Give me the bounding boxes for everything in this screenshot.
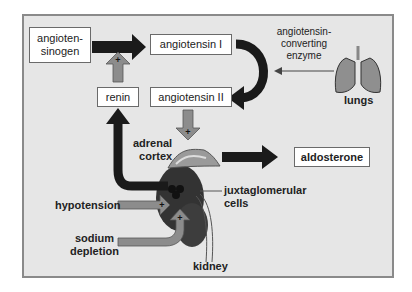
svg-text:+: + [115,55,120,65]
ace-line3: enzyme [274,50,334,62]
renin-box: renin [97,87,139,107]
aldosterone-arrow [222,145,278,169]
angiotensin-1-label: angiotensin I [160,38,222,51]
ace-line2: converting [274,38,334,50]
angiotensinogen-line1: angioten- [37,32,83,45]
angiotensin-2-box: angiotensin II [150,87,232,107]
angiotensinogen-line2: sinogen [41,45,80,58]
renin-label: renin [106,91,130,104]
lungs-label: lungs [344,94,373,107]
adrenal-gland-icon [168,149,220,168]
aldosterone-label: aldosterone [301,151,363,164]
angiotensin-2-label: angiotensin II [158,91,223,104]
lungs-icon [335,46,380,93]
adrenal-cortex-label: adrenal cortex [133,137,172,163]
jg-line2: cells [224,197,307,210]
sodium-line1: sodium [70,232,114,245]
ace-label: angiotensin- converting enzyme [274,26,334,62]
jg-line1: juxtaglomerular [224,184,307,197]
sodium-depletion-label: sodium depletion [70,232,114,258]
juxtaglomerular-label: juxtaglomerular cells [224,184,307,210]
aldosterone-box: aldosterone [294,147,370,167]
sodium-line2: depletion [70,245,114,258]
adrenal-line2: cortex [133,150,172,163]
angiotensinogen-box: angioten- sinogen [29,27,91,63]
svg-text:+: + [185,127,190,137]
ace-line1: angiotensin- [274,26,334,38]
kidney-label: kidney [193,260,228,273]
adrenal-line1: adrenal [133,137,172,150]
hypotension-label: hypotension [55,199,120,212]
svg-text:+: + [159,200,164,210]
angiotensin-1-box: angiotensin I [150,34,232,55]
svg-text:+: + [177,213,182,223]
